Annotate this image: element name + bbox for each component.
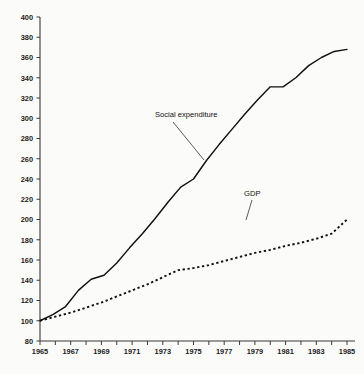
annotation-gdp: GDP bbox=[244, 189, 260, 198]
annotation-social-expenditure: Social expenditure bbox=[155, 110, 217, 119]
x-axis-tick-label: 1985 bbox=[339, 347, 355, 356]
leader-line-gdp bbox=[246, 200, 252, 220]
line-chart: 8010012014016018020022024026028030032034… bbox=[0, 0, 364, 374]
x-axis-tick-label: 1973 bbox=[155, 347, 171, 356]
y-axis-tick-label: 220 bbox=[21, 195, 33, 204]
x-axis-tick-label: 1969 bbox=[93, 347, 109, 356]
y-axis-tick-label: 180 bbox=[21, 236, 33, 245]
y-axis-tick-label: 280 bbox=[21, 134, 33, 143]
y-axis-tick-label: 360 bbox=[21, 53, 33, 62]
series-gdp bbox=[40, 220, 347, 321]
y-axis-tick-label: 80 bbox=[25, 337, 33, 346]
chart-container: 8010012014016018020022024026028030032034… bbox=[0, 0, 364, 374]
y-axis: 8010012014016018020022024026028030032034… bbox=[21, 13, 40, 346]
x-axis-tick-label: 1981 bbox=[277, 347, 293, 356]
y-axis-tick-label: 140 bbox=[21, 276, 33, 285]
y-axis-tick-label: 160 bbox=[21, 256, 33, 265]
x-axis-tick-label: 1977 bbox=[216, 347, 232, 356]
x-axis-tick-label: 1967 bbox=[62, 347, 78, 356]
y-axis-tick-label: 100 bbox=[21, 317, 33, 326]
x-axis: 1965196719691971197319751977197919811983… bbox=[32, 341, 355, 356]
y-axis-tick-label: 340 bbox=[21, 74, 33, 83]
y-axis-tick-label: 380 bbox=[21, 33, 33, 42]
y-axis-tick-label: 200 bbox=[21, 215, 33, 224]
x-axis-tick-label: 1965 bbox=[32, 347, 48, 356]
x-axis-tick-label: 1979 bbox=[247, 347, 263, 356]
y-axis-tick-label: 300 bbox=[21, 114, 33, 123]
y-axis-tick-label: 240 bbox=[21, 175, 33, 184]
y-axis-tick-label: 400 bbox=[21, 13, 33, 22]
y-axis-tick-label: 120 bbox=[21, 296, 33, 305]
x-axis-tick-label: 1971 bbox=[124, 347, 140, 356]
chart-annotations: Social expenditure GDP bbox=[155, 110, 260, 220]
y-axis-tick-label: 260 bbox=[21, 155, 33, 164]
x-axis-tick-label: 1975 bbox=[185, 347, 201, 356]
series-social-expenditure bbox=[40, 49, 347, 320]
leader-line-social-expenditure bbox=[173, 122, 204, 160]
x-axis-tick-label: 1983 bbox=[308, 347, 324, 356]
y-axis-tick-label: 320 bbox=[21, 94, 33, 103]
